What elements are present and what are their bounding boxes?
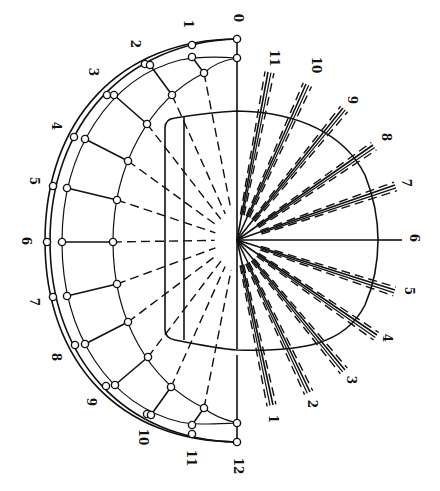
spoke-10 <box>151 387 171 415</box>
station-point-1 <box>188 41 195 48</box>
station-point-6 <box>43 238 50 245</box>
station-point-5 <box>63 184 70 191</box>
dashed-ray-5 <box>117 200 215 233</box>
station-point-9 <box>144 353 151 360</box>
spoke-3 <box>114 95 147 124</box>
station-point-0 <box>233 54 240 61</box>
station-label-3: 3 <box>86 68 100 76</box>
spoke-4 <box>85 139 128 161</box>
fan-stroke <box>237 72 268 240</box>
fan-stroke <box>252 260 342 372</box>
dashed-ray-4 <box>128 161 217 226</box>
station-point-5 <box>49 182 56 189</box>
station-label-5: 5 <box>27 177 41 185</box>
fan-label-1: 1 <box>266 415 280 423</box>
station-point-7 <box>113 280 120 287</box>
fan-label-5: 5 <box>402 287 416 295</box>
station-point-1 <box>200 69 207 76</box>
station-label-2: 2 <box>128 40 142 48</box>
fan-stroke <box>248 85 308 217</box>
station-point-7 <box>49 293 56 300</box>
station-point-11 <box>188 421 195 428</box>
station-point-1 <box>188 53 195 60</box>
station-point-11 <box>200 404 207 411</box>
fan-label-8: 8 <box>379 133 393 141</box>
station-label-8: 8 <box>49 353 63 361</box>
fan-stroke <box>241 265 270 406</box>
polar-construction-diagram: 01234567891011121110987654321 <box>0 0 440 491</box>
station-point-8 <box>124 318 131 325</box>
station-point-6 <box>58 238 65 245</box>
station-point-11 <box>188 430 195 437</box>
station-label-11: 11 <box>184 450 198 467</box>
dashed-ray-11 <box>204 270 231 408</box>
fan-label-7: 7 <box>399 179 413 187</box>
station-point-3 <box>143 120 150 127</box>
diagram-canvas: 01234567891011121110987654321 <box>0 0 440 491</box>
station-point-9 <box>111 381 118 388</box>
station-label-7: 7 <box>27 298 41 306</box>
station-point-4 <box>124 157 131 164</box>
station-point-2 <box>146 61 153 68</box>
fan-stroke <box>240 265 267 406</box>
fan-lines <box>237 71 397 406</box>
dashed-rays <box>113 73 231 408</box>
spoke-2 <box>150 65 172 95</box>
station-point-2 <box>168 91 175 98</box>
station-point-8 <box>71 341 78 348</box>
spoke-9 <box>115 357 148 385</box>
fan-label-3: 3 <box>344 376 358 384</box>
station-label-10: 10 <box>136 429 150 446</box>
station-point-9 <box>102 382 109 389</box>
station-point-12 <box>233 419 240 426</box>
station-label-0: 0 <box>231 14 245 22</box>
fan-stroke <box>250 86 312 217</box>
station-point-8 <box>81 340 88 347</box>
station-label-9: 9 <box>84 398 98 406</box>
outer-arcs <box>45 39 237 442</box>
station-point-10 <box>167 383 174 390</box>
fan-label-10: 10 <box>309 57 323 74</box>
station-label-4: 4 <box>49 122 63 130</box>
station-point-0 <box>233 35 240 42</box>
fan-label-2: 2 <box>305 400 319 408</box>
station-label-6: 6 <box>19 237 33 245</box>
dashed-ray-8 <box>128 255 217 322</box>
station-point-10 <box>147 411 154 418</box>
fan-label-6: 6 <box>407 234 421 242</box>
fan-label-4: 4 <box>380 334 394 342</box>
dashed-ray-10 <box>171 266 225 387</box>
fan-label-9: 9 <box>345 96 359 104</box>
station-point-6 <box>109 238 116 245</box>
fan-stroke <box>261 191 396 234</box>
outer-arc-1 <box>45 39 237 442</box>
spoke-8 <box>85 322 128 344</box>
station-label-1: 1 <box>181 20 195 28</box>
fan-label-11: 11 <box>267 50 281 67</box>
station-point-12 <box>233 438 240 445</box>
fan-stroke <box>240 71 265 214</box>
spoke-7 <box>67 284 117 296</box>
station-point-5 <box>113 196 120 203</box>
station-labels: 01234567891011121110987654321 <box>19 14 421 475</box>
dashed-ray-1 <box>204 73 231 210</box>
station-point-4 <box>81 135 88 142</box>
spoke-5 <box>67 188 117 200</box>
station-label-12: 12 <box>231 458 245 475</box>
station-point-3 <box>110 91 117 98</box>
station-point-7 <box>63 292 70 299</box>
fan-stroke <box>237 240 395 290</box>
station-point-3 <box>103 91 110 98</box>
dashed-ray-6 <box>113 240 215 242</box>
station-point-4 <box>70 133 77 140</box>
dashed-ray-7 <box>117 248 215 284</box>
outer-arc-2 <box>50 39 237 442</box>
